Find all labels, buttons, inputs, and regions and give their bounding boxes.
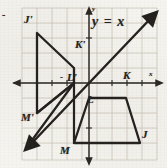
vertex-label-j-prime: J' [24,14,33,25]
line-y-equals-x [25,12,157,150]
vertex-label-l-prime: L' [67,72,77,83]
trapezoid-jklm [74,98,140,143]
y-axis-label: y [92,6,95,13]
negative-tick-mark: - [60,73,63,82]
vertex-label-k: K [123,70,130,81]
line-equation-label: y = x [92,15,125,29]
figure-canvas: J' K' L' M' J K L M - y = x x y - [0,0,167,168]
x-axis-label: x [149,71,153,78]
y-axis-arrow-up [86,8,91,14]
vertex-label-k-prime: K' [75,39,85,50]
x-axis-arrow-left [14,80,20,85]
corner-dash-mark: - [2,10,5,20]
vertex-label-j: J [142,129,148,140]
vertex-label-l: L [87,94,94,105]
coordinate-plane-svg [0,0,167,168]
x-axis-arrow-right [156,80,162,85]
y-axis-arrow-down [86,158,91,164]
vertex-label-m: M [60,145,70,156]
vertex-label-m-prime: M' [21,112,34,123]
